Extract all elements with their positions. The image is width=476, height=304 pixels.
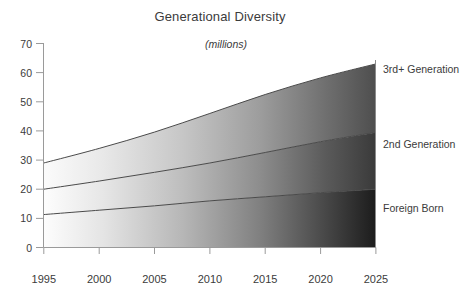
x-tick-label-2005: 2005 (142, 273, 166, 285)
series-label-2nd-generation: 2nd Generation (383, 138, 456, 150)
series-legend: 3rd+ Generation 2nd Generation Foreign B… (383, 63, 459, 214)
y-axis-tick-labels: 70 60 50 40 30 20 10 0 (20, 38, 32, 254)
x-tick-label-2025: 2025 (364, 273, 388, 285)
y-tick-label-70: 70 (20, 38, 32, 50)
y-tick-label-0: 0 (26, 242, 32, 254)
chart-container: Generational Diversity (millions) (0, 0, 476, 304)
x-tick-label-2015: 2015 (253, 273, 277, 285)
y-tick-label-10: 10 (20, 212, 32, 224)
x-tick-label-2000: 2000 (87, 273, 111, 285)
y-tick-label-60: 60 (20, 67, 32, 79)
x-axis-tick-labels: 1995 2000 2005 2010 2015 2020 2025 (32, 273, 389, 285)
x-tick-label-2010: 2010 (198, 273, 222, 285)
y-tick-label-30: 30 (20, 154, 32, 166)
chart-plot-area: 70 60 50 40 30 20 10 0 1995 2000 2005 20… (0, 0, 476, 304)
x-axis (44, 248, 377, 255)
y-tick-label-50: 50 (20, 96, 32, 108)
x-tick-label-1995: 1995 (32, 273, 56, 285)
series-label-3rd-generation: 3rd+ Generation (383, 63, 459, 75)
y-axis (36, 43, 44, 248)
y-tick-label-40: 40 (20, 125, 32, 137)
x-tick-label-2020: 2020 (308, 273, 332, 285)
series-label-foreign-born: Foreign Born (383, 202, 444, 214)
y-tick-label-20: 20 (20, 183, 32, 195)
area-series-group (44, 64, 376, 248)
